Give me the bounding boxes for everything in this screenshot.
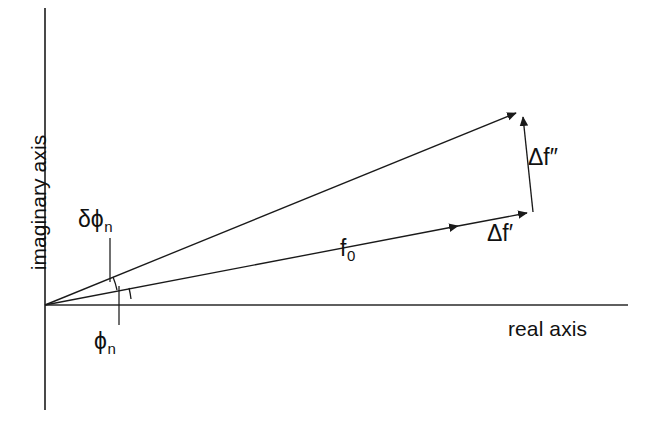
imaginary-axis-label: imaginary axis xyxy=(28,103,49,303)
delta-f-double-prime-label: Δf″ xyxy=(528,146,558,169)
phi-n-arc xyxy=(129,288,131,299)
delta-phi-n-label-subscript: n xyxy=(104,218,112,235)
f0-label-base: f xyxy=(340,235,346,261)
f0-vector xyxy=(45,226,458,305)
real-axis-label: real axis xyxy=(508,318,587,339)
phi-n-label-subscript: n xyxy=(107,340,115,357)
phi-n-label: ϕn xyxy=(94,330,115,353)
f0-label: f0 xyxy=(340,237,355,260)
delta-f-prime-label-mark: ′ xyxy=(509,220,514,246)
f0-label-subscript: 0 xyxy=(347,247,355,264)
delta-f-prime-label: Δf′ xyxy=(487,222,514,245)
delta-f-double-prime-label-mark: ″ xyxy=(550,144,559,170)
delta-phi-n-label: δϕn xyxy=(78,208,112,231)
delta-f-prime-label-base: Δf xyxy=(487,220,509,246)
resultant-vector xyxy=(45,113,516,305)
phi-n-label-base: ϕ xyxy=(94,328,107,354)
delta-phi-n-arc xyxy=(113,277,117,290)
delta-f-double-prime-label-base: Δf xyxy=(528,144,550,170)
figure-canvas: imaginary axis real axis f0 Δf′ Δf″ δϕn … xyxy=(0,0,648,427)
delta-phi-n-label-base: δϕ xyxy=(78,206,104,232)
